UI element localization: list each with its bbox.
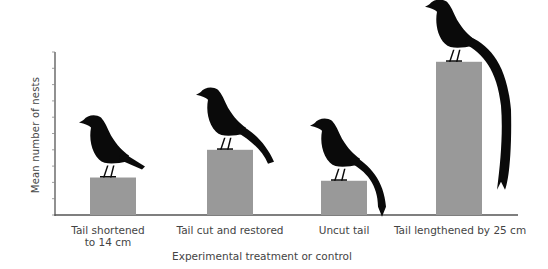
bird-leg [456, 50, 461, 62]
bird-leg [110, 166, 115, 178]
bars [90, 62, 482, 215]
x-axis-label: Experimental treatment or control [172, 250, 352, 262]
bar [321, 181, 367, 215]
bird-leg [334, 169, 340, 181]
bird-leg [341, 169, 346, 181]
y-axis-label: Mean number of nests [30, 77, 41, 193]
x-tick-label: Tail shortened to 14 cm [71, 224, 145, 248]
bird-tail [119, 152, 145, 170]
x-tick-label: Tail cut and restored [176, 224, 283, 236]
bar [90, 178, 136, 215]
x-tick-label: Uncut tail [319, 224, 370, 236]
bar [207, 150, 253, 215]
bird-leg [220, 138, 226, 150]
bird-foot [446, 60, 462, 62]
bird-foot [100, 176, 116, 178]
bird-silhouette-icon [79, 115, 145, 177]
bar [436, 62, 482, 215]
bird-leg [103, 166, 109, 178]
bird-leg [227, 138, 232, 150]
bird-foot [217, 148, 233, 150]
bird-leg [449, 50, 455, 62]
bird-foot [331, 179, 347, 181]
x-tick-label: Tail lengthened by 25 cm [394, 224, 526, 236]
